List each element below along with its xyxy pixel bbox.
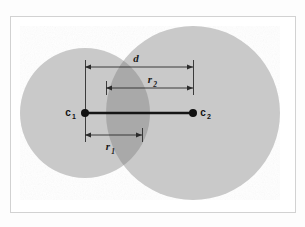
dimension-r2-label: r <box>148 73 153 85</box>
center-point-2-dot <box>189 109 197 117</box>
center-label-c1: c <box>65 107 71 118</box>
dimension-r2-subscript: 2 <box>152 80 157 89</box>
dimension-r1-label: r <box>106 140 111 152</box>
center-point-1-dot <box>81 109 89 117</box>
center-label-c2: c <box>200 107 206 118</box>
circles-diagram: d r 2 r 1 c 1 c 2 <box>0 0 305 227</box>
dimension-d-label: d <box>133 52 139 64</box>
center-label-c1-subscript: 1 <box>72 113 76 120</box>
center-label-c2-subscript: 2 <box>207 113 211 120</box>
figure-container: d r 2 r 1 c 1 c 2 <box>0 0 305 227</box>
dimension-r1-subscript: 1 <box>111 147 115 156</box>
